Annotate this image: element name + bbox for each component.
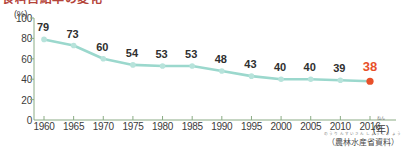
line-chart: (%) 100 80 60 40 20 0 196019651970197519…	[0, 4, 405, 151]
point-value-label-1990: 48	[215, 53, 227, 65]
point-value-label-1975: 54	[126, 47, 138, 59]
data-point	[249, 73, 255, 79]
x-tick-label-1975: 1975	[122, 121, 143, 132]
data-point	[41, 37, 47, 43]
x-tick-label-1960: 1960	[33, 121, 54, 132]
point-value-label-2000: 40	[274, 61, 286, 73]
data-line	[44, 39, 370, 81]
data-point-highlight	[366, 78, 373, 85]
source-note-ruby: のうりんすいさんしょうしりょう	[324, 131, 402, 136]
chart-figure: 食料自給率の変化 (%) 100 80 60 40 20 0 196	[0, 0, 405, 151]
data-point	[308, 76, 314, 82]
point-value-label-2010: 39	[333, 62, 345, 74]
x-axis-ticks	[44, 116, 370, 120]
data-point	[130, 62, 136, 68]
data-point	[338, 77, 344, 83]
point-value-label-2016: 38	[363, 59, 377, 74]
data-point	[278, 76, 284, 82]
x-tick-label-1980: 1980	[152, 121, 173, 132]
x-tick-label-1995: 1995	[241, 121, 262, 132]
data-point	[219, 68, 225, 74]
x-axis-unit-ruby: ねん	[377, 115, 385, 121]
data-point	[71, 43, 77, 49]
x-tick-label-2000: 2000	[271, 121, 292, 132]
point-value-label-1965: 73	[67, 28, 79, 40]
x-tick-label-1990: 1990	[211, 121, 232, 132]
point-value-label-1970: 60	[96, 41, 108, 53]
x-tick-label-1965: 1965	[63, 121, 84, 132]
point-value-label-2005: 40	[304, 61, 316, 73]
x-tick-label-2005: 2005	[300, 121, 321, 132]
point-value-label-1960: 79	[37, 21, 49, 33]
point-value-label-1980: 53	[155, 48, 167, 60]
x-tick-label-1970: 1970	[93, 121, 114, 132]
data-point	[189, 63, 195, 69]
data-markers	[41, 37, 373, 85]
source-note-text: （農林水産省資料）	[327, 138, 399, 147]
source-note: のうりんすいさんしょうしりょう （農林水産省資料）	[327, 136, 399, 147]
x-tick-label-1985: 1985	[182, 121, 203, 132]
point-value-label-1985: 53	[185, 48, 197, 60]
data-point	[100, 56, 106, 62]
point-value-label-1995: 43	[244, 58, 256, 70]
data-point	[160, 63, 166, 69]
